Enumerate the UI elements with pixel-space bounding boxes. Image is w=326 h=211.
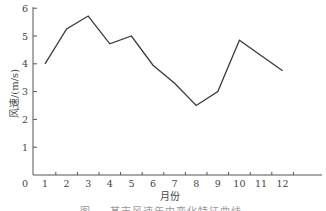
x-tick-label: 2	[64, 178, 70, 189]
y-tick-label: 6	[22, 3, 28, 14]
line-chart: 1234560123456789101112	[0, 0, 326, 211]
x-tick-label: 9	[215, 178, 221, 189]
x-tick-label: 12	[277, 178, 289, 189]
x-tick-label: 1	[42, 178, 48, 189]
x-tick-label: 3	[85, 178, 91, 189]
figure-caption: 图 … 某市风速年内变化特征曲线	[80, 203, 242, 211]
x-tick-label: 8	[193, 178, 199, 189]
y-tick-label: 3	[22, 86, 28, 97]
y-tick-label: 4	[22, 58, 28, 69]
origin-label: 0	[22, 178, 28, 189]
x-tick-label: 10	[233, 178, 245, 189]
x-tick-label: 4	[107, 178, 113, 189]
y-tick-label: 1	[22, 142, 28, 153]
x-tick-label: 5	[128, 178, 134, 189]
x-axis-label: 月份	[160, 188, 180, 203]
y-axis-label: 风速/(m/s)	[6, 59, 21, 129]
x-tick-label: 6	[150, 178, 156, 189]
y-tick-label: 5	[22, 31, 28, 42]
y-tick-label: 2	[22, 114, 28, 125]
wind-speed-line	[45, 16, 283, 106]
x-tick-label: 11	[255, 178, 267, 189]
